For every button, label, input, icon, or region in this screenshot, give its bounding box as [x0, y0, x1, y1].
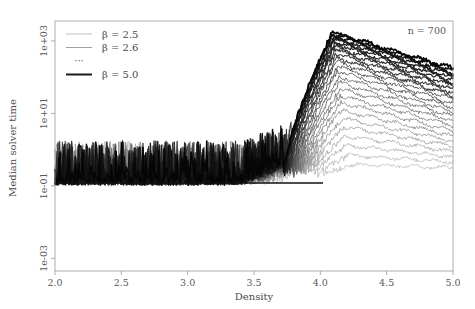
y-tick-label: 1e+03 — [38, 25, 49, 57]
legend-ellipsis-icon: ··· — [74, 55, 84, 66]
x-tick-label: 4.0 — [313, 277, 328, 288]
legend-item[interactable]: ··· — [74, 55, 84, 66]
legend-label: β = 2.6 — [102, 42, 138, 53]
chart-legend[interactable]: β = 2.5β = 2.6···β = 5.0 — [66, 29, 138, 81]
data-curves-layer — [55, 31, 453, 185]
x-tick-label: 5.0 — [445, 277, 460, 288]
y-tick-label: 1e-01 — [38, 172, 49, 199]
x-tick-label: 2.5 — [114, 277, 129, 288]
legend-item[interactable]: β = 5.0 — [66, 69, 138, 80]
x-axis-ticks: 2.02.53.03.54.04.55.0 — [47, 271, 460, 288]
x-axis-title: Density — [235, 291, 274, 302]
legend-item[interactable]: β = 2.5 — [66, 29, 138, 40]
chart-figure: 2.02.53.03.54.04.55.0 1e+031e+011e-011e-… — [0, 0, 475, 309]
y-axis-title: Median solver time — [7, 99, 18, 197]
y-tick-label: 1e-03 — [38, 245, 49, 272]
legend-label: β = 5.0 — [102, 69, 138, 80]
y-tick-label: 1e+01 — [38, 98, 49, 130]
legend-label: β = 2.5 — [102, 29, 138, 40]
legend-item[interactable]: β = 2.6 — [66, 42, 138, 53]
sample-size-annotation: n = 700 — [408, 25, 446, 36]
x-tick-label: 4.5 — [379, 277, 394, 288]
median-solver-time-chart: 2.02.53.03.54.04.55.0 1e+031e+011e-011e-… — [0, 0, 475, 309]
x-tick-label: 3.0 — [180, 277, 195, 288]
x-tick-label: 2.0 — [47, 277, 62, 288]
y-axis-ticks: 1e+031e+011e-011e-03 — [38, 25, 55, 272]
x-tick-label: 3.5 — [246, 277, 261, 288]
